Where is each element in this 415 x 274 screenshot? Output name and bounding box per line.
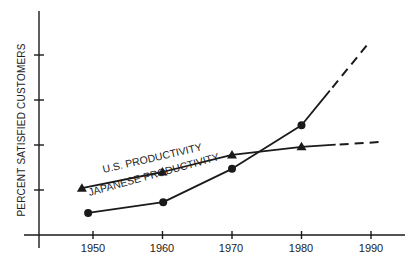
japanese-productivity-projection-dashed [330,43,369,91]
circle-marker-icon [84,209,92,217]
x-tick-label-1960: 1960 [150,242,174,254]
circle-marker-icon [228,165,236,173]
japanese-productivity-line-extension [302,91,330,126]
cropped-caption-strip [0,266,415,274]
us-productivity-line-extension [302,145,336,147]
axes [24,11,405,248]
x-tick-label-1970: 1970 [219,242,243,254]
x-tick-label-1950: 1950 [81,242,105,254]
chart-canvas [0,0,415,274]
x-tick-label-1990: 1990 [359,242,383,254]
y-axis-label: PERCENT SATISFIED CUSTOMERS [16,43,27,216]
us-productivity-projection-dashed [336,142,383,145]
circle-marker-icon [298,121,306,129]
circle-marker-icon [159,198,167,206]
x-tick-label-1980: 1980 [289,242,313,254]
